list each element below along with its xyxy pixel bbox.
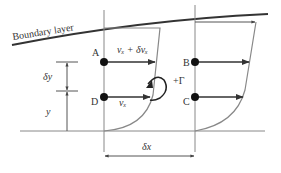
point-b-dot	[191, 58, 199, 66]
dx-label: δx	[142, 141, 152, 152]
circulation-arrow	[148, 77, 166, 100]
boundary-layer-diagram: Boundary layer A D B C vₓ + δvₓ vₓ +Γ δy…	[0, 0, 281, 173]
point-a-dot	[100, 58, 108, 66]
point-d-dot	[100, 93, 108, 101]
velocity-upper-label: vₓ + δvₓ	[117, 44, 148, 55]
circulation-label: +Γ	[173, 75, 185, 86]
point-d-label: D	[91, 96, 98, 107]
velocity-profile-right	[195, 22, 256, 131]
point-c-dot	[191, 93, 199, 101]
point-a-label: A	[92, 47, 100, 58]
point-c-label: C	[183, 96, 190, 107]
velocity-lower-label: vₓ	[119, 97, 126, 108]
dy-label: δy	[43, 71, 53, 82]
point-b-label: B	[183, 57, 190, 68]
y-label: y	[45, 106, 51, 117]
